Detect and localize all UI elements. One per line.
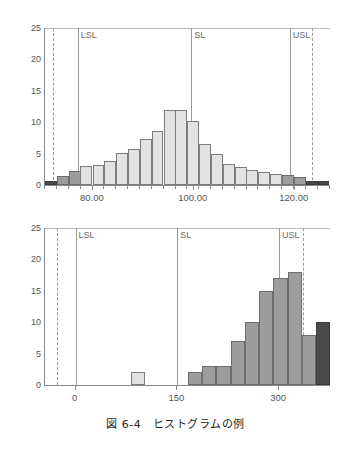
y-tick-label: 15 (31, 286, 41, 295)
x-tick-mark (198, 186, 199, 189)
x-tick-mark (56, 186, 57, 189)
bars-bottom (45, 228, 330, 385)
histogram-bar (235, 167, 247, 185)
figure-histogram-examples: 0510152025 LSLSLUSL 80.00100.00120.00 05… (0, 0, 351, 449)
y-tick-label: 25 (31, 224, 41, 233)
x-tick-label: 120.00 (279, 192, 308, 203)
histogram-bar (45, 181, 57, 185)
histogram-bar (270, 174, 282, 185)
histogram-bar (223, 164, 235, 185)
histogram-bar (188, 372, 202, 385)
histogram-bar (164, 110, 176, 185)
histogram-bar (294, 177, 306, 185)
x-tick-mark (103, 186, 104, 189)
histogram-bar (288, 272, 302, 385)
chart-bottom-histogram: 0510152025 LSLSLUSL 0150300 (0, 215, 351, 410)
histogram-bar (273, 278, 287, 385)
histogram-bar (80, 166, 92, 185)
y-tick-label: 5 (36, 349, 41, 358)
x-tick-mark (294, 186, 295, 190)
histogram-bar (282, 175, 294, 185)
histogram-bar (318, 181, 330, 185)
x-tick-mark (163, 186, 164, 189)
histogram-bar (128, 149, 140, 185)
x-tick-mark (186, 186, 187, 189)
chart-top-histogram: 0510152025 LSLSLUSL 80.00100.00120.00 (0, 0, 351, 215)
histogram-bar (306, 181, 318, 185)
x-tick-mark (222, 186, 223, 189)
figure-caption: 図 6-4 ヒストグラムの例 (0, 418, 351, 432)
x-tick-mark (175, 186, 176, 189)
histogram-bar (246, 170, 258, 185)
x-tick-label: 300 (270, 392, 286, 403)
x-tick-mark (193, 186, 194, 190)
x-tick-mark (44, 186, 45, 189)
y-tick-label: 0 (36, 381, 41, 390)
x-tick-mark (246, 186, 247, 189)
x-tick-label: 0 (72, 392, 77, 403)
x-tick-mark (75, 386, 76, 390)
histogram-bar (302, 335, 316, 385)
histogram-bar (152, 131, 164, 185)
plot-area-top: 0510152025 LSLSLUSL (44, 28, 330, 186)
bars-top (45, 28, 330, 185)
x-tick-mark (176, 386, 177, 390)
histogram-bar (175, 110, 187, 185)
histogram-bar (199, 144, 211, 185)
histogram-bar (231, 341, 245, 385)
x-tick-mark (269, 186, 270, 189)
histogram-bar (116, 153, 128, 185)
histogram-bar (69, 171, 81, 185)
histogram-bar (211, 154, 223, 185)
x-tick-mark (115, 186, 116, 189)
y-tick-label: 10 (31, 318, 41, 327)
histogram-bar (57, 176, 69, 185)
histogram-bar (140, 139, 152, 185)
x-tick-label: 80.00 (80, 192, 104, 203)
y-tick-label: 20 (31, 255, 41, 264)
x-tick-mark (329, 186, 330, 189)
x-tick-mark (139, 186, 140, 189)
y-tick-label: 10 (31, 118, 41, 127)
histogram-bar (131, 372, 145, 385)
x-tick-mark (92, 186, 93, 190)
histogram-bar (104, 161, 116, 185)
x-tick-mark (80, 186, 81, 189)
histogram-bar (202, 366, 216, 385)
x-tick-mark (278, 386, 279, 390)
y-tick-label: 5 (36, 149, 41, 158)
histogram-bar (187, 121, 199, 185)
x-tick-mark (210, 186, 211, 189)
x-tick-mark (317, 186, 318, 189)
y-tick-label: 25 (31, 24, 41, 33)
histogram-bar (316, 322, 330, 385)
x-tick-mark (151, 186, 152, 189)
y-tick-label: 15 (31, 86, 41, 95)
x-tick-mark (257, 186, 258, 189)
histogram-bar (216, 366, 230, 385)
histogram-bar (258, 172, 270, 185)
x-tick-mark (127, 186, 128, 189)
x-tick-mark (234, 186, 235, 189)
y-tick-label: 20 (31, 55, 41, 64)
x-tick-mark (281, 186, 282, 189)
histogram-bar (259, 291, 273, 385)
x-tick-label: 100.00 (178, 192, 207, 203)
y-tick-label: 0 (36, 181, 41, 190)
histogram-bar (245, 322, 259, 385)
plot-area-bottom: 0510152025 LSLSLUSL (44, 228, 330, 386)
x-tick-mark (305, 186, 306, 189)
x-tick-mark (68, 186, 69, 189)
x-tick-label: 150 (168, 392, 184, 403)
histogram-bar (93, 165, 105, 185)
